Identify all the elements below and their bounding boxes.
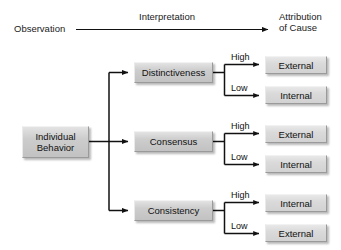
branch-label-consensus-high: High [231, 121, 250, 131]
branch-label-consensus-low: Low [231, 152, 248, 162]
box-outcome-consistency-low[interactable]: External [265, 224, 327, 242]
attribution-theory-diagram: Observation Interpretation Attribution o… [0, 0, 341, 250]
box-individual-behavior-line1: Individual [35, 131, 75, 142]
box-distinctiveness[interactable]: Distinctiveness [134, 62, 213, 83]
branch-label-distinctiveness-high: High [231, 52, 250, 62]
box-outcome-distinctiveness-low[interactable]: Internal [265, 86, 327, 104]
box-outcome-consistency-high[interactable]: Internal [265, 194, 327, 212]
box-consensus[interactable]: Consensus [134, 131, 213, 152]
box-individual-behavior[interactable]: Individual Behavior [22, 126, 89, 158]
box-outcome-consensus-high[interactable]: External [265, 125, 327, 143]
box-outcome-consensus-low[interactable]: Internal [265, 155, 327, 173]
branch-label-consistency-high: High [231, 190, 250, 200]
box-individual-behavior-line2: Behavior [37, 142, 75, 153]
branch-label-distinctiveness-low: Low [231, 83, 248, 93]
branch-label-consistency-low: Low [231, 221, 248, 231]
box-outcome-distinctiveness-high[interactable]: External [265, 56, 327, 74]
box-consistency[interactable]: Consistency [134, 200, 213, 221]
